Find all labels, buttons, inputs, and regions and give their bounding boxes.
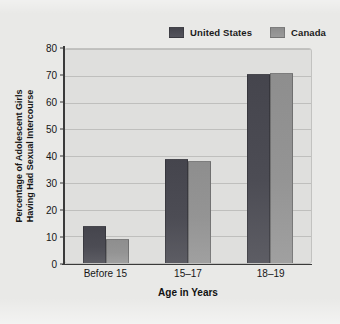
y-axis-tick-mark — [60, 74, 64, 76]
bar-united-states — [83, 226, 106, 263]
x-axis-line — [62, 264, 312, 266]
bar-series-container — [65, 49, 311, 263]
y-axis-tick: 50 — [43, 124, 64, 135]
y-axis-tick: 70 — [43, 70, 64, 81]
plot-area — [64, 48, 312, 264]
chart-figure: United States Canada Percentage of Adole… — [0, 0, 340, 324]
plot-area-wrapper: 80706050403020100 — [64, 48, 312, 264]
x-axis-tick-labels: Before 1515–1718–19 — [64, 268, 312, 279]
legend-item-united-states: United States — [169, 27, 252, 38]
bar-canada — [188, 161, 211, 263]
y-axis-tick-mark — [60, 47, 64, 49]
legend-item-canada: Canada — [270, 27, 326, 38]
y-axis-tick-label: 60 — [43, 97, 57, 108]
bar-group — [229, 49, 311, 263]
y-axis-tick-mark — [60, 182, 64, 184]
legend-swatch-united-states-icon — [169, 27, 184, 38]
y-axis-tick-mark — [60, 101, 64, 103]
y-axis-title: Percentage of Adolescent Girls Having Ha… — [14, 48, 36, 263]
x-axis-tick-label: 18–19 — [229, 268, 312, 279]
y-axis-tick: 30 — [43, 178, 64, 189]
y-axis-tick-label: 10 — [43, 232, 57, 243]
y-axis-tick: 10 — [43, 232, 64, 243]
y-axis-tick-label: 50 — [43, 124, 57, 135]
y-axis-tick: 60 — [43, 97, 64, 108]
bar-united-states — [247, 74, 270, 263]
y-axis-tick-mark — [60, 155, 64, 157]
y-axis-tick-label: 70 — [43, 70, 57, 81]
y-axis-tick-mark — [60, 209, 64, 211]
chart-legend: United States Canada — [0, 24, 326, 40]
y-axis-tick: 20 — [43, 205, 64, 216]
y-axis-title-line-1: Percentage of Adolescent Girls — [14, 89, 25, 222]
y-axis-tick-label: 80 — [43, 43, 57, 54]
y-axis-tick: 40 — [43, 151, 64, 162]
y-axis-title-line-2: Having Had Sexual Intercourse — [25, 89, 36, 222]
bar-united-states — [165, 159, 188, 263]
y-axis-tick-label: 0 — [43, 259, 57, 270]
y-axis-tick: 0 — [43, 259, 64, 270]
y-axis-tick-mark — [60, 236, 64, 238]
legend-label-united-states: United States — [190, 27, 252, 38]
y-axis-tick-mark — [60, 263, 64, 265]
y-axis-tick-label: 40 — [43, 151, 57, 162]
y-axis-tick: 80 — [43, 43, 64, 54]
bar-group — [147, 49, 229, 263]
x-axis-tick-label: Before 15 — [64, 268, 147, 279]
x-axis-tick-label: 15–17 — [147, 268, 230, 279]
bar-canada — [106, 239, 129, 263]
bar-group — [65, 49, 147, 263]
y-axis-tick-label: 30 — [43, 178, 57, 189]
bar-canada — [270, 73, 293, 263]
legend-swatch-canada-icon — [270, 27, 285, 38]
y-axis-tick-label: 20 — [43, 205, 57, 216]
x-axis-title: Age in Years — [64, 287, 312, 298]
legend-label-canada: Canada — [291, 27, 326, 38]
y-axis-tick-mark — [60, 128, 64, 130]
